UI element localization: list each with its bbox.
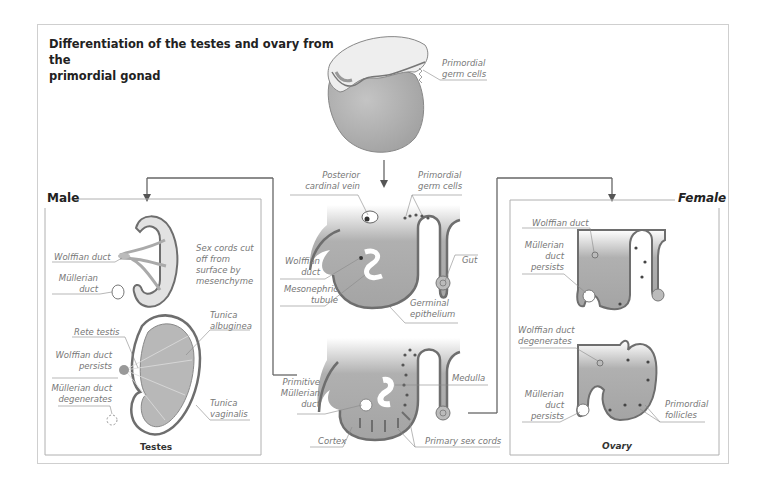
label-primordial-follicles: Primordialfollicles	[665, 399, 708, 421]
label-sex-cords-cut-off: Sex cords cutoff fromsurface bymesenchym…	[196, 243, 254, 287]
testes-caption: Testes	[140, 442, 172, 452]
label-posterior-cardinal-vein: Posteriorcardinal vein	[298, 170, 360, 192]
ovary-illustration	[577, 341, 656, 420]
label-mullerian-duct-degenerates: Müllerian ductdegenerates	[50, 383, 112, 405]
label-mesonephric-tubule: Mesonephrictubule	[280, 284, 338, 306]
diagram-graphics	[0, 0, 763, 486]
differentiating-gonad-illustration	[318, 338, 460, 440]
female-heading: Female	[678, 191, 726, 205]
label-wolffian-duct-center: Wolffianduct	[284, 256, 320, 278]
label-gut: Gut	[462, 255, 477, 266]
label-primitive-mullerian-duct: PrimitiveMüllerianduct	[280, 377, 320, 410]
label-tunica-vaginalis: Tunicavaginalis	[210, 398, 248, 420]
label-cortex: Cortex	[318, 436, 346, 447]
label-germinal-epithelium: Germinalepithelium	[410, 298, 455, 320]
male-heading: Male	[47, 191, 79, 205]
label-female-mullerian-persists-upper: Müllerianductpersists	[522, 240, 564, 273]
label-top-primordial-germ-cells: Primordialgerm cells	[442, 58, 486, 80]
label-female-wolffian-duct: Wolffian duct	[532, 218, 589, 229]
label-medulla: Medulla	[452, 373, 485, 384]
label-tunica-albuginea: Tunicaalbuginea	[210, 310, 252, 332]
testes-illustration	[107, 315, 200, 434]
female-indifferent-ovary-illustration	[577, 230, 665, 309]
label-wolffian-duct-degenerates: Wolffian ductdegenerates	[518, 325, 575, 347]
ovary-caption: Ovary	[602, 441, 632, 451]
label-primary-sex-cords: Primary sex cords	[425, 436, 501, 447]
label-wolffian-duct-persists: Wolffian ductpersists	[52, 350, 112, 372]
label-male-mullerian-duct: Müllerianduct	[56, 273, 98, 295]
label-female-mullerian-persists-lower: Müllerianductpersists	[522, 389, 564, 422]
label-rete-testis: Rete testis	[74, 327, 120, 338]
primordial-gonad-illustration	[328, 37, 487, 153]
label-primordial-germ-cells-center: Primordialgerm cells	[418, 170, 462, 192]
male-sex-cords-illustration	[112, 216, 177, 306]
label-male-wolffian-duct: Wolffian duct	[54, 252, 111, 263]
